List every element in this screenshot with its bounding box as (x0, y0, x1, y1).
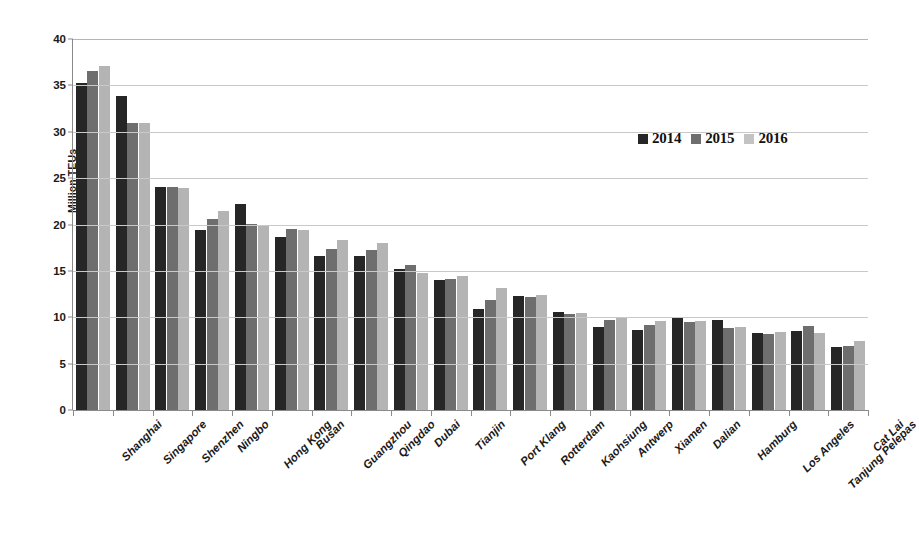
y-tick-label: 35 (53, 79, 66, 91)
bar-2015 (207, 219, 218, 410)
bar-2016 (377, 243, 388, 410)
x-tick-mark (312, 410, 313, 416)
x-axis-label: Hamburg (755, 418, 799, 462)
bar-2016 (99, 66, 110, 410)
legend-swatch-icon (744, 134, 754, 144)
bar-2014 (712, 320, 723, 410)
bar-2016 (139, 123, 150, 410)
y-tick-label: 5 (60, 358, 66, 370)
gridline (73, 364, 868, 365)
x-axis-labels: ShanghaiSingaporeShenzhenNingboHong Kong… (72, 418, 867, 538)
bar-2014 (235, 204, 246, 410)
bar-2015 (843, 346, 854, 410)
bar-2014 (831, 347, 842, 410)
bar-2014 (195, 230, 206, 410)
bar-2014 (553, 312, 564, 410)
bar-2016 (218, 211, 229, 410)
legend-item-2015[interactable]: 2015 (691, 130, 734, 147)
bar-2016 (457, 276, 468, 410)
x-tick-mark (630, 410, 631, 416)
x-tick-mark (272, 410, 273, 416)
y-tick-mark (68, 39, 73, 40)
gridline (73, 39, 868, 40)
y-tick-mark (68, 224, 73, 225)
bar-2015 (127, 123, 138, 410)
y-tick-label: 25 (53, 172, 66, 184)
x-axis-label-text: Xiamen (672, 418, 709, 455)
x-tick-mark (351, 410, 352, 416)
x-tick-mark (749, 410, 750, 416)
x-axis-label-text: Tanjung Pelepas (846, 418, 919, 491)
bar-2015 (286, 229, 297, 410)
bar-2015 (723, 328, 734, 410)
x-tick-mark (510, 410, 511, 416)
x-tick-mark (828, 410, 829, 416)
bar-2015 (644, 325, 655, 410)
bar-2015 (525, 297, 536, 410)
x-tick-mark (471, 410, 472, 416)
x-tick-mark (113, 410, 114, 416)
bar-2015 (604, 320, 615, 410)
bar-2014 (354, 256, 365, 410)
y-tick-label: 0 (60, 404, 66, 416)
x-tick-mark (431, 410, 432, 416)
bar-2014 (752, 333, 763, 410)
x-axis-label-text: Los Angeles (800, 418, 857, 475)
y-tick-label: 15 (53, 265, 66, 277)
bar-2015 (763, 334, 774, 410)
legend-item-2016[interactable]: 2016 (744, 130, 787, 147)
bar-2014 (434, 280, 445, 410)
gridline (73, 225, 868, 226)
y-tick-mark (68, 131, 73, 132)
bar-2015 (87, 71, 98, 410)
legend-swatch-icon (691, 134, 701, 144)
legend-label: 2016 (758, 130, 787, 147)
bar-2016 (854, 341, 865, 410)
x-axis-label: Tianjin (472, 418, 507, 453)
bar-2016 (298, 230, 309, 410)
bar-2015 (445, 279, 456, 410)
bar-2014 (394, 269, 405, 410)
x-tick-mark (232, 410, 233, 416)
bar-2016 (337, 240, 348, 410)
gridline (73, 85, 868, 86)
x-tick-mark (868, 410, 869, 416)
bar-2014 (155, 187, 166, 410)
bar-2015 (326, 249, 337, 410)
bar-2016 (417, 273, 428, 410)
x-axis-label: Los Angeles (800, 418, 857, 475)
x-tick-mark (391, 410, 392, 416)
bar-2014 (314, 256, 325, 410)
bar-2014 (632, 330, 643, 410)
x-axis-label-text: Dalian (710, 418, 743, 451)
legend-swatch-icon (638, 134, 648, 144)
bar-2015 (485, 300, 496, 410)
bar-2014 (473, 309, 484, 410)
y-tick-mark (68, 317, 73, 318)
bar-2016 (536, 295, 547, 410)
bar-2014 (593, 327, 604, 410)
legend-item-2014[interactable]: 2014 (638, 130, 681, 147)
x-tick-mark (669, 410, 670, 416)
bar-2014 (513, 296, 524, 410)
y-tick-label: 20 (53, 219, 66, 231)
y-tick-label: 30 (53, 126, 66, 138)
gridline (73, 271, 868, 272)
bar-2016 (695, 321, 706, 410)
x-axis-label-text: Shanghai (119, 418, 164, 463)
x-axis-label-text: Hamburg (755, 418, 799, 462)
gridline (73, 178, 868, 179)
legend-label: 2014 (652, 130, 681, 147)
x-axis-label: Dalian (710, 418, 743, 451)
x-tick-mark (192, 410, 193, 416)
x-tick-mark (709, 410, 710, 416)
bar-2016 (655, 321, 666, 410)
y-tick-mark (68, 363, 73, 364)
chart-legend: 201420152016 (638, 130, 788, 147)
x-axis-label: Dubai (431, 418, 462, 449)
x-tick-mark (789, 410, 790, 416)
legend-label: 2015 (705, 130, 734, 147)
bar-2016 (496, 288, 507, 410)
bar-2016 (178, 188, 189, 410)
